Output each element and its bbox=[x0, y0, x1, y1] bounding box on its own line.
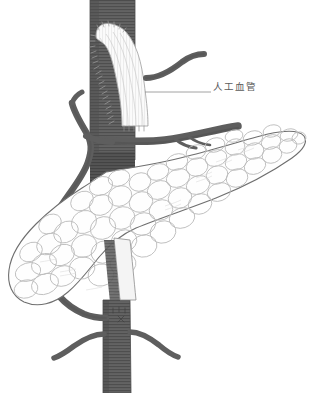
medical-illustration-figure: 人工血管 bbox=[0, 0, 312, 393]
anatomy-diagram bbox=[0, 0, 312, 393]
pancreas-body bbox=[9, 123, 308, 305]
lower-left-branch bbox=[54, 334, 104, 358]
lower-vein-segment bbox=[104, 238, 136, 302]
graft-annotation-label: 人工血管 bbox=[213, 83, 257, 93]
lower-right-branch bbox=[130, 332, 178, 357]
upper-right-branch bbox=[146, 54, 204, 78]
